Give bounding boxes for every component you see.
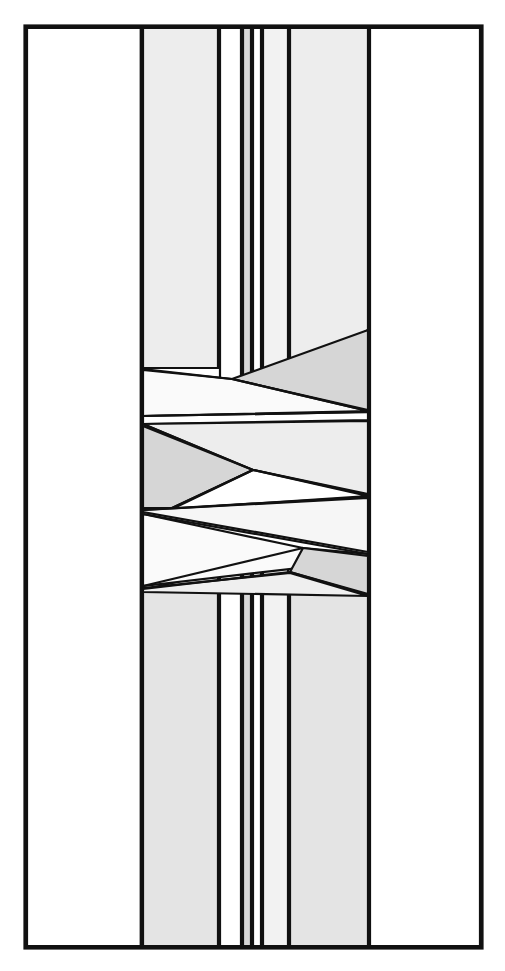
left-margin-panel	[27, 28, 141, 946]
band-upper-5	[263, 28, 288, 400]
band-lower-2	[220, 566, 241, 946]
band-upper-3	[243, 28, 251, 413]
lower-bands-group	[143, 556, 368, 946]
figure-canvas	[0, 0, 505, 971]
right-margin-panel	[370, 28, 480, 946]
band-lower-1	[143, 572, 218, 946]
band-lower-6	[290, 572, 368, 946]
band-upper-4	[253, 28, 261, 409]
band-lower-5	[263, 556, 288, 946]
band-upper-6	[290, 28, 368, 375]
band-lower-3	[243, 563, 251, 946]
band-lower-4	[253, 561, 261, 946]
figure-root	[0, 0, 505, 971]
band-upper-2	[220, 28, 241, 406]
band-upper-1	[143, 28, 218, 368]
